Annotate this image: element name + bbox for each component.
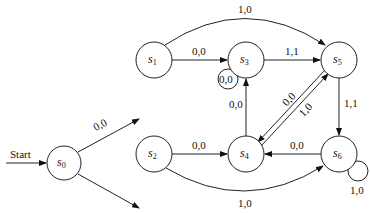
- edge-s6-s4: 0,0: [265, 139, 321, 154]
- edge-label: 0,0: [219, 73, 233, 85]
- state-s0: s0: [47, 146, 81, 180]
- edge-label: 1,0: [296, 100, 314, 119]
- edge-s5-s4: 0,0: [258, 70, 325, 142]
- state-s1: s1: [136, 42, 172, 78]
- edge-label: 1,0: [238, 197, 252, 209]
- edge-label: 0,0: [192, 45, 206, 57]
- edge-s2-s4: 0,0: [172, 139, 227, 154]
- edge-label: 0,0: [229, 98, 243, 110]
- start-arrow: Start: [6, 148, 46, 163]
- state-s3: s3: [228, 42, 264, 78]
- edge-s5-s6: 1,1: [339, 78, 358, 135]
- edge-label: 1,1: [344, 97, 358, 109]
- edge-s4-s3: 0,0: [229, 79, 246, 136]
- edge-s4-s5: 1,0: [262, 74, 328, 145]
- edge-s0-s1: 0,0: [78, 116, 139, 152]
- edge-s2-s6: 1,0: [166, 166, 323, 209]
- edge-label: 1,0: [238, 3, 252, 15]
- edge-s1-s5: 1,0: [165, 3, 325, 45]
- edge-s1-s3: 0,0: [172, 45, 227, 60]
- state-s4: s4: [228, 136, 264, 172]
- state-s5: s5: [321, 42, 357, 78]
- start-label: Start: [10, 148, 31, 160]
- edge-s3-s5: 1,1: [264, 45, 320, 60]
- edge-s0-s2: [78, 174, 139, 208]
- state-diagram: Start 0,0 0,0 1,0 0,0 1,1 0,0 1,0 0,0: [0, 0, 370, 213]
- edge-label: 1,0: [350, 184, 364, 196]
- edge-label: 0,0: [279, 89, 297, 108]
- edge-label: 1,1: [285, 45, 299, 57]
- edge-label: 0,0: [192, 139, 206, 151]
- state-s2: s2: [136, 136, 172, 172]
- edge-label: 0,0: [91, 116, 109, 133]
- state-s6: s6: [321, 136, 357, 172]
- edge-label: 0,0: [290, 139, 304, 151]
